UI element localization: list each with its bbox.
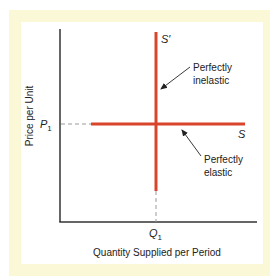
inelastic-annotation-line2: inelastic	[193, 75, 229, 86]
inelastic-arrow	[161, 67, 190, 89]
figure: S′ S Perfectly inelastic Perfectly elast…	[0, 0, 274, 278]
elastic-arrow	[182, 130, 201, 156]
s-prime-label: S′	[161, 33, 171, 45]
y-axis-title: Price per Unit	[24, 85, 35, 146]
p1-tick-label: P1	[40, 118, 52, 133]
elastic-annotation-line2: elastic	[204, 167, 232, 178]
chart-svg: S′ S Perfectly inelastic Perfectly elast…	[0, 0, 274, 278]
elastic-annotation-line1: Perfectly	[204, 154, 243, 165]
q1-tick-label: Q1	[149, 227, 163, 242]
inelastic-annotation-line1: Perfectly	[193, 62, 232, 73]
s-label: S	[238, 128, 246, 140]
x-axis-title: Quantity Supplied per Period	[93, 247, 221, 258]
